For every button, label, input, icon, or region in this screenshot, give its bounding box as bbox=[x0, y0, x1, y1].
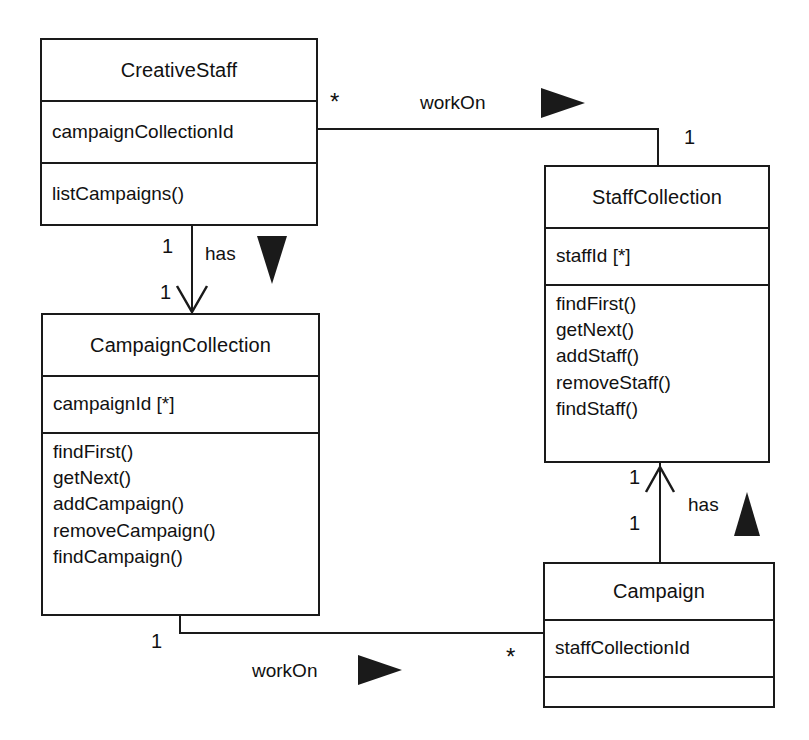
workon-top-source-multiplicity: * bbox=[330, 90, 339, 114]
has-left-label: has bbox=[205, 243, 236, 265]
workon-top-vertical-segment bbox=[657, 128, 659, 167]
attribute-campaign-collection-id: campaignCollectionId bbox=[52, 119, 316, 145]
attributes-compartment-campaign: staffCollectionId bbox=[545, 619, 773, 676]
attribute-staff-id: staffId [*] bbox=[556, 243, 768, 269]
has-left-target-multiplicity: 1 bbox=[160, 281, 171, 304]
operation-find-first: findFirst() bbox=[556, 291, 768, 317]
has-right-label: has bbox=[688, 494, 719, 516]
operation-remove-staff: removeStaff() bbox=[556, 370, 768, 396]
uml-class-diagram-canvas: * workOn 1 1 1 has 1 1 has 1 workOn * Cr… bbox=[0, 0, 809, 740]
workon-top-horizontal-segment bbox=[318, 128, 659, 130]
operation-find-first: findFirst() bbox=[53, 439, 318, 465]
operation-get-next: getNext() bbox=[53, 465, 318, 491]
has-right-open-arrowhead-icon bbox=[639, 462, 683, 500]
attributes-compartment-campaign-collection: campaignId [*] bbox=[43, 375, 318, 432]
operations-compartment-campaign bbox=[545, 676, 773, 706]
class-box-staff-collection[interactable]: StaffCollection staffId [*] findFirst() … bbox=[544, 165, 770, 463]
workon-top-label: workOn bbox=[420, 92, 485, 114]
class-name-compartment-creative-staff: CreativeStaff bbox=[42, 40, 316, 100]
class-box-creative-staff[interactable]: CreativeStaff campaignCollectionId listC… bbox=[40, 38, 318, 226]
workon-bottom-direction-triangle-icon bbox=[358, 655, 402, 685]
attributes-compartment-staff-collection: staffId [*] bbox=[546, 227, 768, 284]
class-name-campaign-collection: CampaignCollection bbox=[90, 334, 271, 357]
operation-remove-campaign: removeCampaign() bbox=[53, 518, 318, 544]
class-box-campaign-collection[interactable]: CampaignCollection campaignId [*] findFi… bbox=[41, 313, 320, 616]
has-right-target-multiplicity: 1 bbox=[629, 466, 640, 489]
operation-find-campaign: findCampaign() bbox=[53, 544, 318, 570]
workon-bottom-target-multiplicity: * bbox=[506, 645, 515, 669]
class-name-creative-staff: CreativeStaff bbox=[121, 59, 238, 82]
has-right-source-multiplicity: 1 bbox=[629, 512, 640, 535]
has-left-open-arrowhead-icon bbox=[170, 278, 214, 318]
operation-add-staff: addStaff() bbox=[556, 343, 768, 369]
attribute-staff-collection-id: staffCollectionId bbox=[555, 635, 773, 661]
operation-get-next: getNext() bbox=[556, 317, 768, 343]
attributes-compartment-creative-staff: campaignCollectionId bbox=[42, 100, 316, 162]
operation-find-staff: findStaff() bbox=[556, 396, 768, 422]
class-name-compartment-campaign-collection: CampaignCollection bbox=[43, 315, 318, 375]
has-right-direction-triangle-icon bbox=[734, 492, 760, 536]
class-name-compartment-staff-collection: StaffCollection bbox=[546, 167, 768, 227]
has-left-direction-triangle-icon bbox=[257, 236, 287, 284]
workon-top-target-multiplicity: 1 bbox=[684, 126, 695, 149]
operation-list-campaigns: listCampaigns() bbox=[52, 181, 316, 207]
operation-add-campaign: addCampaign() bbox=[53, 491, 318, 517]
workon-bottom-label: workOn bbox=[252, 660, 317, 682]
workon-bottom-source-multiplicity: 1 bbox=[151, 630, 162, 653]
operations-compartment-campaign-collection: findFirst() getNext() addCampaign() remo… bbox=[43, 432, 318, 614]
has-left-source-multiplicity: 1 bbox=[162, 235, 173, 258]
operations-compartment-creative-staff: listCampaigns() bbox=[42, 162, 316, 224]
class-box-campaign[interactable]: Campaign staffCollectionId bbox=[543, 562, 775, 708]
class-name-campaign: Campaign bbox=[613, 580, 705, 603]
workon-bottom-horizontal-segment bbox=[179, 632, 545, 634]
attribute-campaign-id: campaignId [*] bbox=[53, 391, 318, 417]
class-name-staff-collection: StaffCollection bbox=[592, 186, 722, 209]
class-name-compartment-campaign: Campaign bbox=[545, 564, 773, 619]
workon-top-direction-triangle-icon bbox=[541, 88, 585, 118]
operations-compartment-staff-collection: findFirst() getNext() addStaff() removeS… bbox=[546, 284, 768, 461]
